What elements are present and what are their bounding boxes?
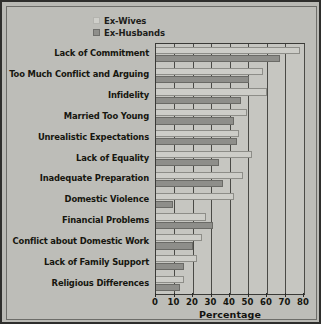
bar-ex-wives xyxy=(156,234,202,241)
bar-ex-wives xyxy=(156,68,263,75)
bar-ex-wives xyxy=(156,151,252,158)
x-axis-tick-label: 60 xyxy=(260,297,272,307)
gridline xyxy=(285,44,286,294)
bar-ex-husbands xyxy=(156,180,223,187)
x-axis-tick-label: 80 xyxy=(297,297,309,307)
x-axis-tick-label: 50 xyxy=(242,297,254,307)
x-axis-tick-label: 20 xyxy=(186,297,198,307)
category-label: Lack of Equality xyxy=(76,153,149,163)
x-axis-tick-label: 0 xyxy=(152,297,158,307)
category-label: Domestic Violence xyxy=(65,194,149,204)
x-axis-tick-label: 70 xyxy=(279,297,291,307)
category-label: Financial Problems xyxy=(62,215,149,225)
bar-ex-husbands xyxy=(156,284,180,291)
x-axis-tick-label: 10 xyxy=(168,297,180,307)
legend-item-label: Ex-Wives xyxy=(104,16,146,26)
bar-ex-husbands xyxy=(156,117,234,124)
bar-ex-wives xyxy=(156,193,234,200)
category-label: Married Too Young xyxy=(64,111,149,121)
gridline xyxy=(267,44,268,294)
bar-ex-husbands xyxy=(156,159,219,166)
bar-ex-wives xyxy=(156,109,247,116)
legend-item-wives[interactable]: Ex-Wives xyxy=(93,15,213,26)
category-label: Conflict about Domestic Work xyxy=(13,236,149,246)
category-label: Too Much Conflict and Arguing xyxy=(9,69,149,79)
bar-ex-wives xyxy=(156,88,267,95)
category-label: Religious Differences xyxy=(52,278,149,288)
bar-ex-husbands xyxy=(156,242,193,249)
bar-ex-husbands xyxy=(156,97,241,104)
legend-swatch-icon xyxy=(93,17,100,24)
x-axis-tick-label: 40 xyxy=(223,297,235,307)
chart-figure: Ex-WivesEx-Husbands Lack of CommitmentTo… xyxy=(0,0,321,324)
bar-ex-wives xyxy=(156,213,206,220)
category-label: Lack of Family Support xyxy=(44,257,149,267)
category-label: Unrealistic Expectations xyxy=(38,132,149,142)
chart-inner-frame: Ex-WivesEx-Husbands Lack of CommitmentTo… xyxy=(6,6,317,320)
bar-ex-husbands xyxy=(156,201,173,208)
bar-ex-husbands xyxy=(156,263,184,270)
bar-ex-husbands xyxy=(156,55,280,62)
gridline xyxy=(304,44,305,294)
bar-ex-husbands xyxy=(156,76,249,83)
x-axis-tick-label: 30 xyxy=(205,297,217,307)
legend-item-husbands[interactable]: Ex-Husbands xyxy=(93,27,213,38)
legend-item-label: Ex-Husbands xyxy=(104,28,165,38)
plot-wrapper: Lack of CommitmentToo Much Conflict and … xyxy=(7,43,318,293)
bar-ex-wives xyxy=(156,276,184,283)
bar-ex-wives xyxy=(156,255,197,262)
plot-area xyxy=(155,43,305,295)
bar-ex-husbands xyxy=(156,138,237,145)
category-axis-labels: Lack of CommitmentToo Much Conflict and … xyxy=(7,43,155,293)
category-label: Infidelity xyxy=(108,90,149,100)
bar-ex-wives xyxy=(156,130,239,137)
category-label: Lack of Commitment xyxy=(54,48,149,58)
x-axis-title: Percentage xyxy=(155,309,305,320)
chart-legend: Ex-WivesEx-Husbands xyxy=(93,15,213,39)
bar-ex-husbands xyxy=(156,222,213,229)
bar-ex-wives xyxy=(156,172,243,179)
legend-swatch-icon xyxy=(93,29,100,36)
bar-ex-wives xyxy=(156,47,300,54)
category-label: Inadequate Preparation xyxy=(40,173,149,183)
x-axis: Percentage 01020304050607080 xyxy=(155,293,305,324)
